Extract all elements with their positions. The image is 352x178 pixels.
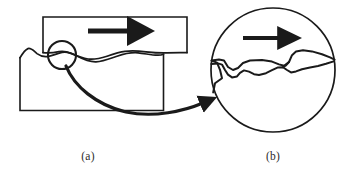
figure-container: (a) (b) xyxy=(0,0,352,178)
upper-block-outline xyxy=(43,17,187,53)
panel-a-caption: (a) xyxy=(0,150,176,162)
panel-a-group xyxy=(20,17,187,111)
magnification-callout-arrow xyxy=(66,66,203,114)
lower-asperity-profile xyxy=(211,61,333,77)
left-asperity-step-detail xyxy=(212,61,222,93)
lower-block-outline xyxy=(20,54,164,110)
panel-b-group xyxy=(211,8,335,132)
right-asperity-notch-detail xyxy=(283,62,289,67)
panel-b-caption: (b) xyxy=(205,150,341,162)
